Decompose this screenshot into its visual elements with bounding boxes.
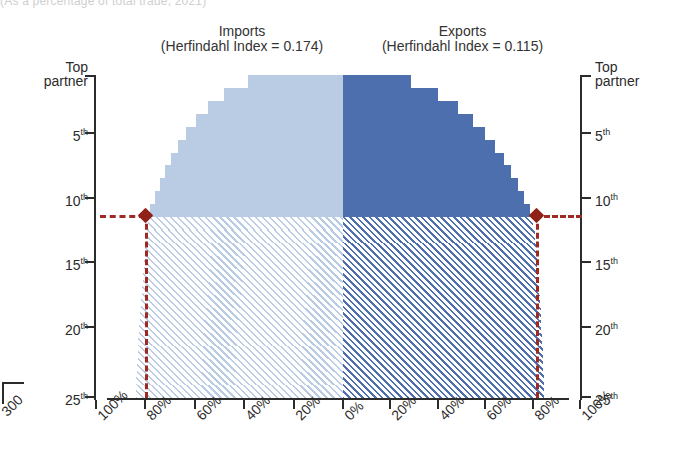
step-band <box>146 230 343 244</box>
y-label-left-5: 5th <box>34 125 88 143</box>
step-band <box>140 308 343 322</box>
exports-subtitle: (Herfindahl Index = 0.115) <box>355 39 570 54</box>
step-band <box>137 359 343 373</box>
step-band <box>343 269 538 283</box>
imports-area <box>96 75 343 398</box>
step-band <box>343 295 540 309</box>
step-band <box>343 217 533 231</box>
step-band <box>139 320 343 334</box>
step-band <box>343 204 530 218</box>
step-band <box>343 140 495 154</box>
step-band <box>343 346 543 360</box>
step-band <box>186 127 343 141</box>
y-label-right-top-partner: Toppartner <box>595 60 661 88</box>
step-band <box>343 320 541 334</box>
ordinal-suffix: th <box>611 321 619 331</box>
y-label-left-top-partner: Toppartner <box>26 60 88 88</box>
step-band <box>343 230 535 244</box>
y-tick-right-3 <box>582 197 591 199</box>
step-band <box>148 217 343 231</box>
ordinal-suffix: th <box>80 192 88 202</box>
y-tick-right-2 <box>582 132 591 134</box>
step-band <box>142 282 343 296</box>
y-label-right-15: 15th <box>595 254 618 272</box>
step-band <box>343 308 541 322</box>
step-band <box>155 191 343 205</box>
step-band <box>343 153 504 167</box>
step-band <box>165 165 343 179</box>
step-band <box>196 114 343 128</box>
step-band <box>343 333 542 347</box>
exports-panel-heading: Exports (Herfindahl Index = 0.115) <box>355 24 570 54</box>
ordinal-suffix: th <box>80 391 88 401</box>
step-band <box>343 88 438 102</box>
step-band <box>141 295 343 309</box>
y-axis-right <box>580 75 582 400</box>
neighbor-axis-horizontal <box>2 382 24 384</box>
step-band <box>343 127 485 141</box>
step-band <box>343 385 544 398</box>
step-band <box>150 204 343 218</box>
y-label-right-10: 10th <box>595 190 618 208</box>
ordinal-suffix: th <box>603 127 611 137</box>
reference-line-right-vertical <box>536 215 539 398</box>
y-label-left-25: 25th <box>34 389 88 407</box>
step-band <box>343 256 537 270</box>
ordinal-suffix: th <box>611 256 619 266</box>
exports-title: Exports <box>355 24 570 39</box>
y-axis-left <box>94 75 96 400</box>
step-band <box>343 165 511 179</box>
step-band <box>144 256 343 270</box>
step-band <box>138 333 343 347</box>
step-band <box>224 88 343 102</box>
step-band <box>160 178 343 192</box>
step-band <box>145 243 343 257</box>
step-band <box>178 140 343 154</box>
step-band <box>343 75 411 89</box>
y-label-left-top-line2: partner <box>44 73 88 89</box>
imports-subtitle: (Herfindahl Index = 0.174) <box>138 39 346 54</box>
step-band <box>343 191 524 205</box>
step-band <box>208 101 343 115</box>
step-band <box>343 178 518 192</box>
imports-title: Imports <box>138 24 346 39</box>
reference-line-left-vertical <box>145 215 148 398</box>
y-label-left-15: 15th <box>34 254 88 272</box>
y-label-left-20: 20th <box>34 319 88 337</box>
step-band <box>248 75 343 89</box>
y-label-left-10: 10th <box>34 190 88 208</box>
ordinal-suffix: th <box>611 192 619 202</box>
plot-area <box>96 75 580 398</box>
imports-panel-heading: Imports (Herfindahl Index = 0.174) <box>138 24 346 54</box>
y-tick-right-6 <box>582 396 591 398</box>
ordinal-suffix: th <box>80 256 88 266</box>
step-band <box>343 101 458 115</box>
ordinal-suffix: th <box>80 127 88 137</box>
y-label-right-20: 20th <box>595 319 618 337</box>
y-tick-right-4 <box>582 261 591 263</box>
step-band <box>143 269 343 283</box>
x-tick-right-5 <box>532 400 534 409</box>
x-label-left-6: 0% <box>341 398 367 424</box>
chart-figure: (As a percentage of total trade, 2021) I… <box>0 0 691 453</box>
exports-area <box>343 75 580 398</box>
y-label-right-5: 5th <box>595 125 610 143</box>
ordinal-suffix: th <box>80 321 88 331</box>
y-tick-right-5 <box>582 326 591 328</box>
cut-off-caption: (As a percentage of total trade, 2021) <box>0 0 691 8</box>
step-band <box>343 282 539 296</box>
y-label-right-top-line2: partner <box>595 73 639 89</box>
step-band <box>343 359 543 373</box>
x-tick-left-5 <box>293 400 295 409</box>
step-band <box>138 346 344 360</box>
step-band <box>343 114 473 128</box>
step-band <box>136 372 343 386</box>
step-band <box>343 372 544 386</box>
step-band <box>171 153 343 167</box>
step-band <box>343 243 536 257</box>
y-tick-right-1 <box>582 75 591 77</box>
